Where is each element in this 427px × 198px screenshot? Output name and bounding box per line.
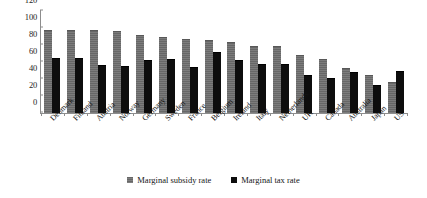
bar-group xyxy=(110,11,133,113)
bar xyxy=(396,71,404,113)
y-tick-label: 60 xyxy=(29,47,37,56)
x-tick-mark xyxy=(247,113,248,116)
legend-label: Marginal subsidy rate xyxy=(137,176,211,185)
legend-swatch-subsidy xyxy=(127,177,133,183)
bar-group xyxy=(87,11,110,113)
y-tick-label: 80 xyxy=(29,30,37,39)
bar-group xyxy=(384,11,407,113)
x-tick-mark xyxy=(407,113,408,116)
y-tick-mark xyxy=(40,61,43,62)
bar xyxy=(44,30,52,113)
y-axis-tick-labels: 020406080100120 xyxy=(0,0,37,104)
bar-group xyxy=(178,11,201,113)
y-tick-label: 0 xyxy=(33,98,37,107)
bar-group xyxy=(247,11,270,113)
bar xyxy=(273,46,281,113)
x-axis-category-labels: DenmarkFinlandAustriaNorwayGermanySweden… xyxy=(41,117,407,169)
bar-group xyxy=(338,11,361,113)
y-tick-mark xyxy=(40,95,43,96)
bar-group xyxy=(41,11,64,113)
y-tick-mark xyxy=(40,112,43,113)
bar xyxy=(388,82,396,113)
bar xyxy=(113,31,121,113)
x-tick-mark xyxy=(87,113,88,116)
legend-swatch-tax xyxy=(231,177,237,183)
bar xyxy=(90,30,98,113)
y-tick-mark xyxy=(40,78,43,79)
x-tick-mark xyxy=(133,113,134,116)
bar xyxy=(250,46,258,113)
legend-item: Marginal subsidy rate xyxy=(127,176,211,185)
bar xyxy=(205,40,213,113)
bar-group xyxy=(201,11,224,113)
y-tick-mark xyxy=(40,44,43,45)
y-tick-label: 120 xyxy=(25,0,37,4)
bar-group xyxy=(133,11,156,113)
bar-group xyxy=(316,11,339,113)
x-tick-mark xyxy=(316,113,317,116)
chart-legend: Marginal subsidy rateMarginal tax rate xyxy=(0,176,427,185)
y-tick-label: 100 xyxy=(25,13,37,22)
bar xyxy=(319,59,327,113)
x-tick-mark xyxy=(110,113,111,116)
bar xyxy=(213,52,221,113)
x-tick-mark xyxy=(293,113,294,116)
bar-groups xyxy=(41,11,407,113)
y-tick-label: 20 xyxy=(29,81,37,90)
y-tick-mark xyxy=(40,10,43,11)
bar-group xyxy=(270,11,293,113)
legend-label: Marginal tax rate xyxy=(241,176,299,185)
bar-chart: 020406080100120 DenmarkFinlandAustriaNor… xyxy=(0,0,427,198)
y-tick-label: 40 xyxy=(29,64,37,73)
x-tick-mark xyxy=(41,113,42,116)
y-tick-mark xyxy=(40,27,43,28)
legend-item: Marginal tax rate xyxy=(231,176,299,185)
x-tick-mark xyxy=(64,113,65,116)
bar xyxy=(258,64,266,113)
x-tick-mark xyxy=(270,113,271,116)
